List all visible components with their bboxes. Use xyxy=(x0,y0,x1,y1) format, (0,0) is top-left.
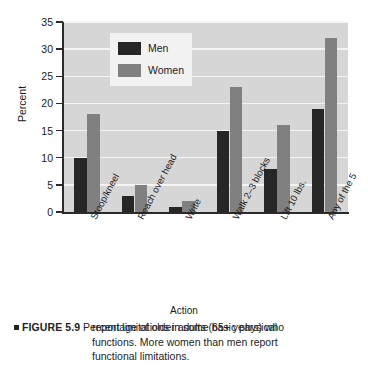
y-axis-tick-label: 5 xyxy=(13,180,53,191)
figure-5-9: 05101520253035 Percent Stoop/kneelReach … xyxy=(0,0,368,384)
y-axis-tick xyxy=(56,21,63,23)
x-axis-title: Action xyxy=(0,305,368,316)
bar-women-3 xyxy=(230,87,243,212)
caption-figure-label: FIGURE 5.9 xyxy=(22,321,80,333)
caption-line-4: functional limitations. xyxy=(92,349,358,364)
y-axis-tick xyxy=(56,76,63,78)
gridline xyxy=(63,48,348,50)
y-axis-tick xyxy=(56,103,63,105)
bar-men-4 xyxy=(264,169,277,212)
gridline xyxy=(63,103,348,105)
gridline xyxy=(63,130,348,132)
legend-swatch-women xyxy=(118,64,141,77)
y-axis-tick xyxy=(56,211,63,213)
gridline xyxy=(63,157,348,159)
bar-men-1 xyxy=(122,196,135,212)
caption-line-3: functions. More women than men report xyxy=(92,335,358,350)
y-axis-tick xyxy=(56,130,63,132)
y-axis-tick-label: 35 xyxy=(13,17,53,28)
gridline xyxy=(63,21,348,23)
y-axis-tick xyxy=(56,184,63,186)
bar-men-0 xyxy=(74,158,87,212)
figure-caption: FIGURE 5.9 Percentage of older adults (6… xyxy=(14,320,358,364)
bar-men-5 xyxy=(312,109,325,212)
caption-bullet-icon xyxy=(14,325,19,330)
caption-line-2: report limitations in some basic physica… xyxy=(92,320,358,335)
x-axis-line xyxy=(62,212,349,214)
y-axis-tick-label: 10 xyxy=(13,153,53,164)
y-axis-title: Percent xyxy=(16,74,28,134)
bar-women-5 xyxy=(325,38,338,212)
y-axis-tick-label: 30 xyxy=(13,44,53,55)
legend-label-men: Men xyxy=(148,42,168,55)
y-axis-tick-label: 0 xyxy=(13,207,53,218)
legend-swatch-men xyxy=(118,42,141,55)
legend-label-women: Women xyxy=(148,64,184,77)
y-axis-tick xyxy=(56,48,63,50)
y-axis-tick xyxy=(56,157,63,159)
bar-men-3 xyxy=(217,131,230,212)
legend: Men Women xyxy=(110,33,192,86)
gridline xyxy=(63,76,348,78)
